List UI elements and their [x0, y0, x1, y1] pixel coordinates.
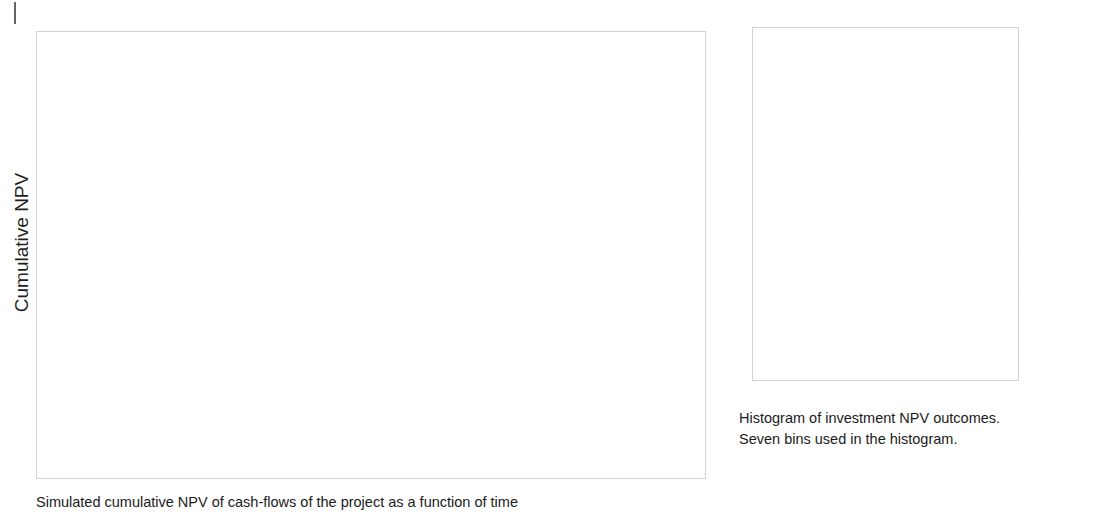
page-canvas: 6004002000−200−400−600−800−1000−12000123…: [0, 0, 1107, 519]
npv-histogram-figure: 051015202530[−93, −3][−3, 87][87, 177][1…: [720, 0, 1107, 519]
y-axis-title: Cumulative NPV: [11, 172, 32, 312]
npv-histogram-plot-frame: [752, 27, 1019, 381]
cumulative-npv-caption: Simulated cumulative NPV of cash-flows o…: [36, 492, 696, 513]
cumulative-npv-figure: 6004002000−200−400−600−800−1000−12000123…: [0, 0, 720, 519]
cumulative-npv-plot-frame: [36, 31, 706, 479]
npv-histogram-caption: Histogram of investment NPV outcomes. Se…: [739, 408, 1099, 449]
